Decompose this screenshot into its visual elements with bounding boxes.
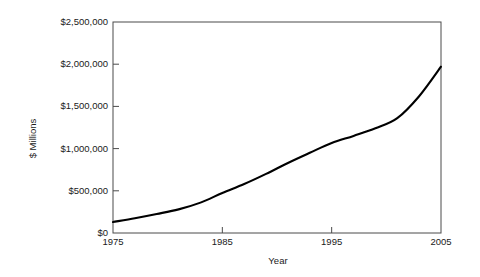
x-axis-label: Year: [248, 255, 308, 266]
x-tick-label: 2005: [415, 237, 467, 247]
x-tick-label: 1975: [87, 237, 139, 247]
x-tick-label: 1985: [196, 237, 248, 247]
x-tick-label: 1995: [306, 237, 358, 247]
line-chart: $ Millions $0$500,000$1,000,000$1,500,00…: [0, 0, 480, 277]
x-axis-tick-labels: 1975198519952005: [0, 0, 480, 277]
